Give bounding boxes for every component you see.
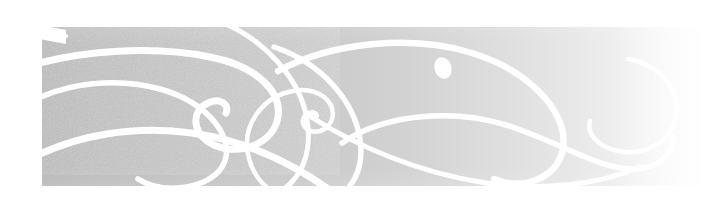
banner-alt-text: Decorative grey banner with white callig…: [0, 0, 1, 1]
banner-canvas: Decorative grey banner with white callig…: [0, 0, 712, 213]
ornament-accent-teardrop-dot: [432, 55, 455, 81]
banner-ornament-group: [42, 27, 701, 186]
ornament-lower-left-sweep: [42, 51, 278, 150]
ornament-center-tight-spiral: [247, 90, 333, 186]
decorative-swirl-banner: [42, 27, 701, 186]
ornament-right-hook-curl: [589, 59, 676, 152]
ornament-right-large-loop: [342, 116, 672, 169]
swirl-ornaments-svg: [42, 27, 701, 186]
ornament-upper-left-nick: [42, 32, 66, 36]
ornament-upper-arc-sweep: [278, 43, 564, 184]
